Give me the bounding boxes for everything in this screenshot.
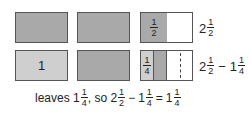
- row2-split-box: 1 4: [140, 50, 193, 81]
- row1-half-shaded: 1 2: [141, 13, 167, 42]
- row1-label: 2 12: [199, 16, 214, 40]
- row2-quarter-light: 1 4: [141, 51, 154, 80]
- caption: leaves 1 14 , so 2 12 − 1 14 = 1 14: [35, 87, 181, 109]
- row1-whole-box-2: [77, 12, 130, 43]
- row2-quarter-dark: [154, 51, 167, 80]
- row2-whole-box-1: 1: [15, 50, 68, 81]
- row2-label: 2 12 − 1 14: [199, 54, 245, 78]
- row1-whole-box-1: [15, 12, 68, 43]
- row2-box1-label: 1: [16, 51, 67, 80]
- row2-whole-box-2: [77, 50, 130, 81]
- row1-half-box: 1 2: [140, 12, 193, 43]
- quarter-fraction: 1 4: [143, 56, 150, 76]
- dashed-divider: [180, 53, 181, 78]
- row2-half-white: [167, 51, 192, 80]
- half-fraction: 1 2: [150, 18, 157, 38]
